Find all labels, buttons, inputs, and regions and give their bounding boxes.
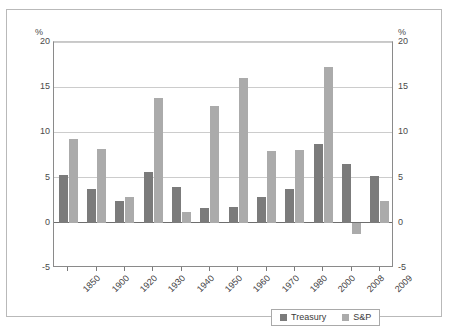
- y-tick-label-left: 10: [40, 127, 50, 136]
- y-tick-label-left: 20: [40, 37, 50, 46]
- x-tick-label-1920: 1920: [138, 273, 159, 294]
- x-tickmark: [322, 267, 323, 271]
- x-tickmark: [96, 267, 97, 271]
- y-tick-label-right: 20: [398, 37, 408, 46]
- chart-legend: TreasuryS&P: [271, 309, 380, 326]
- legend-item-treasury: Treasury: [280, 313, 326, 322]
- bar-treasury-2009: [370, 176, 379, 223]
- y-tick-label-left: 15: [40, 82, 50, 91]
- y-tick-label-left: -5: [42, 263, 50, 272]
- chart-frame: % % 20151050-5 20151050-5 18501900192019…: [6, 9, 442, 317]
- x-tick-label-1970: 1970: [279, 273, 300, 294]
- y-tick-label-left: 5: [45, 173, 50, 182]
- y-tick-label-right: 10: [398, 127, 408, 136]
- x-tick-label-2008: 2008: [364, 273, 385, 294]
- x-tick-label-1940: 1940: [194, 273, 215, 294]
- legend-label: S&P: [353, 313, 371, 322]
- x-tick-label-1930: 1930: [166, 273, 187, 294]
- y-tick-label-right: -5: [398, 263, 406, 272]
- bar-group: [54, 42, 394, 266]
- x-tickmark: [294, 267, 295, 271]
- bar-s-p-2009: [380, 201, 389, 223]
- x-tick-label-2000: 2000: [336, 273, 357, 294]
- x-tick-label-1960: 1960: [251, 273, 272, 294]
- legend-swatch-icon: [342, 314, 349, 321]
- legend-swatch-icon: [280, 314, 287, 321]
- x-tickmark: [209, 267, 210, 271]
- y-tick-label-right: 0: [398, 218, 403, 227]
- plot-area: [53, 41, 393, 267]
- x-tickmark: [181, 267, 182, 271]
- y-tick-label-right: 5: [398, 173, 403, 182]
- x-tickmark: [237, 267, 238, 271]
- x-tick-label-2009: 2009: [393, 273, 414, 294]
- legend-label: Treasury: [291, 313, 326, 322]
- x-tickmark: [124, 267, 125, 271]
- y-tick-label-left: 0: [45, 218, 50, 227]
- x-tick-label-1980: 1980: [308, 273, 329, 294]
- x-tickmark: [379, 267, 380, 271]
- x-tick-label-1900: 1900: [109, 273, 130, 294]
- y-tick-label-right: 15: [398, 82, 408, 91]
- x-tickmark: [351, 267, 352, 271]
- x-tick-label-1850: 1850: [81, 273, 102, 294]
- x-tickmark: [67, 267, 68, 271]
- x-tick-label-1950: 1950: [223, 273, 244, 294]
- legend-item-snp: S&P: [342, 313, 371, 322]
- x-tickmark: [152, 267, 153, 271]
- x-tickmark: [266, 267, 267, 271]
